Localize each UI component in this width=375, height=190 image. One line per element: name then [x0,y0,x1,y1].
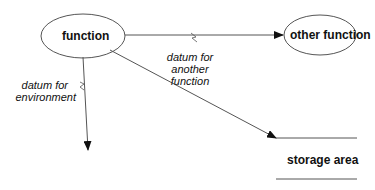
other-function-label: other function [290,29,371,41]
flow-label-line: environment [14,91,76,103]
flow-to-environment[interactable] [83,57,88,150]
flow-label-line: datum for [165,51,215,63]
flow-label-line: datum for [14,79,76,91]
flow-label-another-function: datum for another function [165,51,215,87]
flow-label-environment: datum for environment [14,79,76,103]
lightning-icon [80,82,84,90]
lightning-icon [191,33,197,42]
flow-label-line: function [165,75,215,87]
flow-label-line: another [165,63,215,75]
storage-area-label: storage area [287,154,358,166]
function-label: function [62,30,109,42]
